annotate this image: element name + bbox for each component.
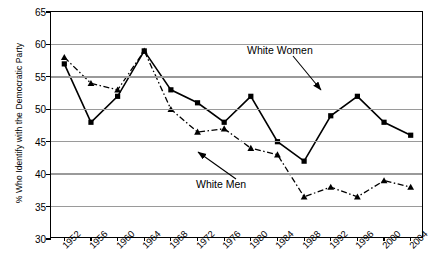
label-white-women: White Women: [247, 44, 313, 56]
arrow-white-men: [198, 152, 236, 179]
annotation-arrows: [0, 0, 433, 269]
arrow-white-women: [293, 56, 321, 90]
chart-container: % Who Identify with the Democratic Party…: [0, 0, 433, 269]
label-white-men: White Men: [196, 178, 246, 190]
